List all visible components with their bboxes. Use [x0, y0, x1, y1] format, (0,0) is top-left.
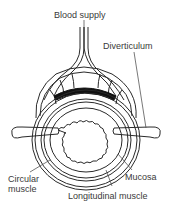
label-blood-supply: Blood supply — [54, 10, 106, 20]
bowel-wall-layers — [32, 90, 140, 190]
label-mucosa: Mucosa — [125, 172, 157, 182]
label-circular-muscle-line1: Circular — [8, 174, 39, 184]
label-diverticulum: Diverticulum — [103, 41, 153, 51]
label-longitudinal-muscle: Longitudinal muscle — [68, 191, 148, 201]
mucosa-lumen — [58, 121, 108, 164]
label-circular-muscle-line2: muscle — [8, 184, 37, 194]
lateral-vessel-loops — [12, 127, 161, 138]
